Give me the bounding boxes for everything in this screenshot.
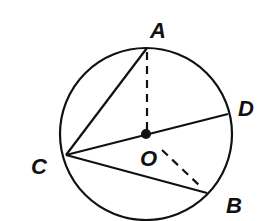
label-o: O <box>140 146 157 171</box>
dashed-segment-ob <box>162 150 200 186</box>
label-a: A <box>149 18 166 43</box>
segment-ca <box>66 48 147 155</box>
geometry-diagram: A D C B O <box>0 0 269 221</box>
label-b: B <box>226 193 242 218</box>
label-d: D <box>238 96 254 121</box>
label-c: C <box>31 154 48 179</box>
center-point-o <box>141 129 151 139</box>
